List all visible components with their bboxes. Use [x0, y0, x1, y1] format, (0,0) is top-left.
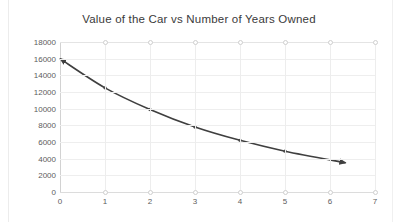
- open-marker-top: [238, 40, 243, 45]
- gridline-horizontal: [60, 92, 376, 93]
- open-marker-top: [283, 40, 288, 45]
- y-axis-tick-label: 4000: [4, 154, 56, 163]
- gridline-vertical: [240, 42, 241, 192]
- gridline-horizontal: [60, 125, 376, 126]
- gridline-horizontal: [60, 59, 376, 60]
- open-marker-top: [373, 40, 378, 45]
- x-axis-tick-label: 7: [365, 197, 385, 206]
- data-series-curve: [60, 42, 376, 192]
- gridline-vertical: [330, 42, 331, 192]
- gridline-vertical: [150, 42, 151, 192]
- y-axis-tick-label: 6000: [4, 138, 56, 147]
- x-axis-tick-label: 2: [140, 197, 160, 206]
- gridline-vertical: [285, 42, 286, 192]
- open-marker-top: [103, 40, 108, 45]
- y-axis-tick-label: 2000: [4, 171, 56, 180]
- open-marker-top: [328, 40, 333, 45]
- chart-title: Value of the Car vs Number of Years Owne…: [0, 13, 398, 25]
- gridline-vertical: [105, 42, 106, 192]
- open-marker-top: [193, 40, 198, 45]
- y-axis-tick-label: 14000: [4, 71, 56, 80]
- gridline-horizontal: [60, 75, 376, 76]
- gridline-horizontal: [60, 159, 376, 160]
- y-axis-tick-label: 8000: [4, 121, 56, 130]
- x-axis-tick-label: 6: [320, 197, 340, 206]
- gridline-horizontal: [60, 175, 376, 176]
- gridline-horizontal: [60, 109, 376, 110]
- y-axis-tick-label: 10000: [4, 104, 56, 113]
- open-marker-top: [148, 40, 153, 45]
- gridline-horizontal: [60, 142, 376, 143]
- x-axis-tick-label: 1: [95, 197, 115, 206]
- page-edge-right: [392, 0, 393, 222]
- y-axis-tick-label: 16000: [4, 54, 56, 63]
- x-axis-tick-label: 4: [230, 197, 250, 206]
- y-axis-tick-label: 18000: [4, 38, 56, 47]
- chart-container: Value of the Car vs Number of Years Owne…: [0, 0, 398, 222]
- y-axis-tick-labels: 0200040006000800010000120001400016000180…: [0, 42, 56, 192]
- gridline-vertical: [375, 42, 376, 192]
- x-axis-tick-label: 0: [50, 197, 70, 206]
- x-axis-tick-label: 5: [275, 197, 295, 206]
- y-axis-tick-label: 12000: [4, 88, 56, 97]
- x-axis-tick-labels: 01234567: [0, 192, 398, 212]
- x-axis-tick-label: 3: [185, 197, 205, 206]
- plot-area: [60, 42, 376, 192]
- gridline-vertical: [195, 42, 196, 192]
